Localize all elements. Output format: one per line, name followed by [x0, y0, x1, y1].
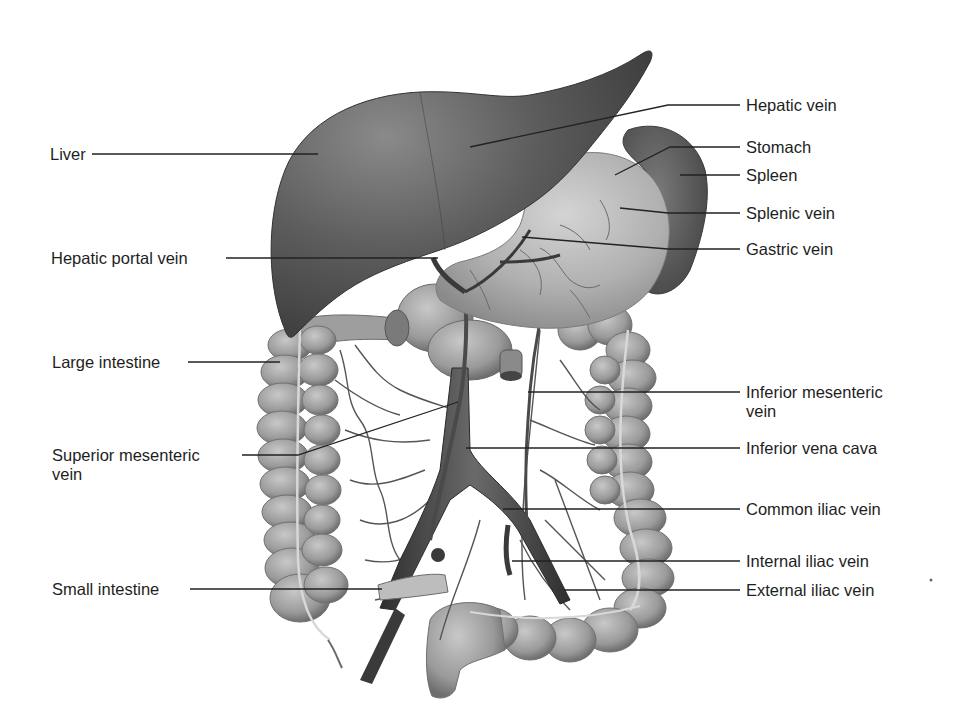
label-splenic-vein: Splenic vein [746, 204, 835, 223]
label-superior-mesenteric-vein: Superior mesenteric vein [52, 446, 200, 484]
label-large-intestine: Large intestine [52, 353, 160, 372]
label-small-intestine: Small intestine [52, 580, 159, 599]
label-inferior-mesenteric-vein: Inferior mesenteric vein [746, 383, 883, 421]
label-stomach: Stomach [746, 138, 811, 157]
label-external-iliac-vein: External iliac vein [746, 581, 874, 600]
label-hepatic-vein: Hepatic vein [746, 96, 837, 115]
label-common-iliac-vein: Common iliac vein [746, 500, 881, 519]
descending-colon-illustration [558, 305, 674, 628]
label-line: vein [52, 465, 200, 484]
inferior-mesenteric-vein-illustration [526, 300, 545, 540]
hepatic-portal-system-diagram: Liver Hepatic portal vein Large intestin… [0, 0, 958, 723]
label-inferior-vena-cava: Inferior vena cava [746, 439, 877, 458]
large-intestine-illustration [257, 315, 400, 668]
label-spleen: Spleen [746, 166, 797, 185]
label-line: vein [746, 402, 883, 421]
label-liver: Liver [50, 145, 86, 164]
label-internal-iliac-vein: Internal iliac vein [746, 552, 869, 571]
label-line: Superior mesenteric [52, 446, 200, 465]
label-line: Inferior mesenteric [746, 383, 883, 402]
stray-dot [930, 579, 933, 582]
sigmoid-colon-illustration [426, 603, 638, 698]
label-hepatic-portal-vein: Hepatic portal vein [51, 249, 188, 268]
label-gastric-vein: Gastric vein [746, 240, 833, 259]
